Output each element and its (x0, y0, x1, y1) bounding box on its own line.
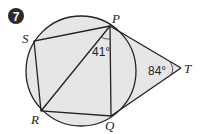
problem-number: 7 (13, 10, 20, 24)
point-label-P: P (111, 11, 120, 26)
angle-label-PTQ: 84° (148, 64, 166, 78)
geometry-diagram: 7 P S R Q T 41° 84° (0, 0, 201, 134)
point-label-S: S (22, 31, 29, 46)
angle-label-RPQ: 41° (92, 45, 110, 59)
point-label-Q: Q (105, 118, 115, 133)
tangent-region-fill (110, 26, 181, 116)
point-label-T: T (184, 61, 192, 76)
point-label-R: R (30, 112, 39, 127)
